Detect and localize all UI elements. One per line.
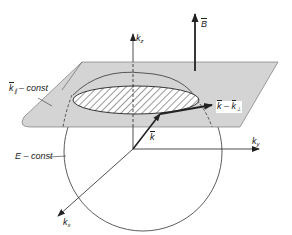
kx-axis	[58, 149, 133, 216]
diagram-svg	[0, 0, 292, 235]
ky-axis-label: ky	[252, 137, 260, 147]
diagram-canvas: kz ky kx B k k∥ – const k – k⊥ E – const	[0, 0, 292, 235]
k-minus-kperp-label: k – k⊥	[216, 101, 242, 113]
k-vector-label: k	[150, 133, 155, 142]
b-field-label: B	[201, 20, 207, 29]
kx-axis-label: kx	[63, 218, 71, 228]
e-const-label: E – const	[15, 152, 53, 161]
kz-axis-label: kz	[136, 34, 144, 44]
k-parallel-const-label: k∥ – const	[9, 84, 48, 94]
